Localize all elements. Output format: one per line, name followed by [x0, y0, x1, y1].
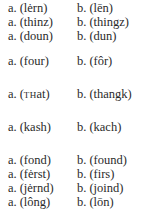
option-b-label: b.	[77, 29, 86, 43]
option-a-text: (lông)	[20, 195, 51, 209]
option-a: a.(thinz)	[8, 15, 53, 29]
option-a-text: (jėrnd)	[20, 181, 54, 195]
option-b-label: b.	[77, 153, 86, 167]
option-a-label: a.	[8, 29, 17, 43]
option-a-label: a.	[8, 181, 17, 195]
option-a-label: a.	[8, 15, 17, 29]
option-b-label: b.	[77, 181, 86, 195]
option-a: a.(fond)	[8, 153, 51, 167]
option-b-label: b.	[77, 1, 86, 15]
pair-row-1: a.(lėrn) b.(lēn)	[0, 1, 145, 15]
option-b-text: (fôr)	[89, 54, 112, 68]
pair-row-3: a.(doun) b.(dun)	[0, 29, 145, 43]
option-b-text: (thangk)	[89, 87, 131, 101]
option-b: b.(lēn)	[77, 1, 113, 15]
pair-row-6: a.(kash) b.(kach)	[0, 120, 145, 134]
option-b-text: (kach)	[89, 120, 121, 134]
option-a-label: a.	[8, 54, 17, 68]
voiced-th-symbol: TH	[24, 90, 37, 100]
option-a-text: (fond)	[20, 153, 51, 167]
option-b-text: (found)	[89, 153, 127, 167]
option-b-text: (firs)	[89, 167, 114, 181]
option-a-label: a.	[8, 87, 17, 101]
option-b: b.(kach)	[77, 120, 121, 134]
option-b-label: b.	[77, 87, 86, 101]
option-b: b.(dun)	[77, 29, 116, 43]
pair-row-9: a.(jėrnd) b.(joind)	[0, 181, 145, 195]
option-b-text: (thingz)	[89, 15, 129, 29]
pair-row-10: a.(lông) b.(lōn)	[0, 195, 145, 209]
option-b-label: b.	[77, 120, 86, 134]
option-a-text: (doun)	[20, 29, 53, 43]
option-a-label: a.	[8, 1, 17, 15]
option-b-label: b.	[77, 167, 86, 181]
pair-row-8: a.(fėrst) b.(firs)	[0, 167, 145, 181]
option-b: b.(firs)	[77, 167, 114, 181]
option-a-text: (thinz)	[20, 15, 53, 29]
option-a-text: (lėrn)	[20, 1, 48, 15]
option-a: a.(jėrnd)	[8, 181, 54, 195]
option-b: b.(lōn)	[77, 195, 114, 209]
option-a: a.(doun)	[8, 29, 53, 43]
pair-row-7: a.(fond) b.(found)	[0, 153, 145, 167]
option-a: a.(THat)	[8, 87, 50, 102]
option-b-label: b.	[77, 54, 86, 68]
option-a-label: a.	[8, 120, 17, 134]
option-b: b.(thingz)	[77, 15, 129, 29]
option-b-text: (lōn)	[89, 195, 113, 209]
option-b: b.(thangk)	[77, 87, 132, 101]
option-b-label: b.	[77, 195, 86, 209]
option-a-label: a.	[8, 153, 17, 167]
pair-row-4: a.(four) b.(fôr)	[0, 54, 145, 68]
option-b: b.(fôr)	[77, 54, 112, 68]
option-a: a.(fėrst)	[8, 167, 50, 181]
pair-row-5: a.(THat) b.(thangk)	[0, 87, 145, 101]
option-a: a.(lông)	[8, 195, 50, 209]
option-b-text: (joind)	[89, 181, 123, 195]
option-b: b.(joind)	[77, 181, 123, 195]
option-b-label: b.	[77, 15, 86, 29]
option-b-text: (dun)	[89, 29, 116, 43]
option-a: a.(lėrn)	[8, 1, 47, 15]
option-a-text-rest: at)	[36, 87, 49, 101]
pair-row-2: a.(thinz) b.(thingz)	[0, 15, 145, 29]
option-a: a.(four)	[8, 54, 49, 68]
option-a-text: (four)	[20, 54, 49, 68]
option-a-text: (kash)	[20, 120, 51, 134]
option-a-label: a.	[8, 195, 17, 209]
option-a-text: (fėrst)	[20, 167, 51, 181]
option-a: a.(kash)	[8, 120, 51, 134]
option-a-label: a.	[8, 167, 17, 181]
option-b: b.(found)	[77, 153, 127, 167]
option-b-text: (lēn)	[89, 1, 113, 15]
